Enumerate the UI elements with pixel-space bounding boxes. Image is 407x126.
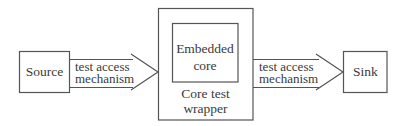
right-tam-label: test access mechanism [259,61,318,84]
sink-label: Sink [343,65,388,78]
core-test-wrapper-label-line1: Core test [158,86,253,101]
core-test-wrapper-label-line2: wrapper [158,101,253,116]
right-tam-label-line2: mechanism [259,73,318,85]
left-tam-label-line2: mechanism [75,73,134,85]
embedded-core-label-line2: core [172,57,238,74]
embedded-core-label: Embedded core [172,40,238,74]
left-tam-label: test access mechanism [75,61,134,84]
test-architecture-diagram: Source test access mechanism Embedded co… [0,0,407,126]
core-test-wrapper-label: Core test wrapper [158,86,253,116]
source-label: Source [19,65,70,78]
embedded-core-label-line1: Embedded [172,40,238,57]
